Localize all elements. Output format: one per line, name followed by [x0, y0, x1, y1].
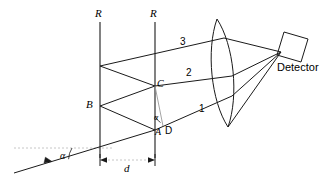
label-ray-2: 2: [186, 68, 192, 78]
label-ray-1: 1: [199, 104, 205, 114]
internal-ray-e-to-exit: [100, 38, 224, 66]
label-angle-interior: α: [154, 114, 158, 122]
label-separation-d: d: [124, 163, 130, 174]
internal-ray-c-to-e: [100, 66, 155, 86]
label-angle-incidence: α: [60, 151, 65, 161]
dimension-arrow-left: [100, 157, 107, 163]
converging-ray-2: [232, 52, 281, 76]
label-point-a: A: [155, 127, 161, 137]
converging-ray-3: [224, 38, 281, 52]
emergent-ray-2: [155, 76, 232, 86]
detector-box: [277, 32, 308, 62]
internal-ray-a-to-b: [100, 106, 155, 130]
converging-ray-1: [232, 52, 281, 96]
incidence-angle-arc: [69, 148, 72, 159]
label-point-d: D: [165, 126, 172, 136]
label-point-b: B: [86, 99, 93, 110]
label-reflector-right: R: [150, 8, 157, 19]
converging-ray-lower-edge: [228, 52, 281, 127]
internal-ray-b-to-c: [100, 86, 155, 106]
label-detector: Detector: [277, 62, 319, 73]
incident-ray: [14, 130, 155, 173]
diagram-canvas: [0, 0, 336, 179]
label-reflector-left: R: [95, 8, 102, 19]
optics-ray-diagram: R R B C A D 1 2 3 α α d Detector: [0, 0, 336, 179]
dimension-arrow-right: [148, 157, 155, 163]
converging-lens: [211, 19, 234, 127]
label-point-c: C: [157, 79, 164, 89]
label-ray-3: 3: [180, 37, 186, 47]
